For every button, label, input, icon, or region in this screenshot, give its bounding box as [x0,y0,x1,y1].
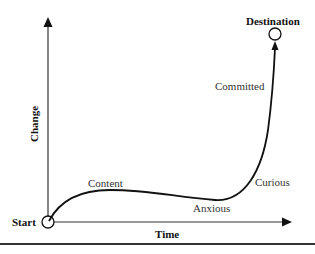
y-axis-arrow-icon [44,17,53,27]
change-curve [49,48,275,221]
y-axis-label: Change [29,106,40,142]
curve-arrow-icon [272,41,279,50]
stage-label-committed: Committed [215,81,265,92]
stage-label-anxious: Anxious [193,203,230,214]
start-label: Start [12,217,36,228]
stage-label-content: Content [88,178,123,189]
bottom-divider [0,243,315,245]
change-curve-diagram [0,0,315,254]
x-axis-label: Time [155,229,179,240]
start-circle [42,216,54,228]
destination-circle [269,28,281,40]
x-axis-arrow-icon [282,218,292,227]
destination-label: Destination [246,16,300,27]
stage-label-curious: Curious [255,177,290,188]
